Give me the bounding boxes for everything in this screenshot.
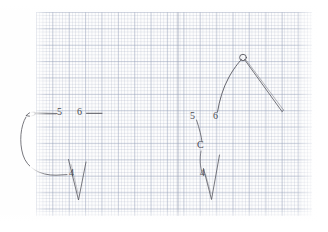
right-barb-inner bbox=[206, 174, 212, 194]
left-label-6: 6 bbox=[77, 107, 82, 117]
right-label-6: 6 bbox=[213, 111, 218, 121]
right-barb-v bbox=[204, 155, 220, 200]
left-shank-curve bbox=[21, 117, 67, 175]
right-blade-inner bbox=[247, 61, 284, 111]
left-leader-line-5 bbox=[35, 113, 58, 114]
right-blade-outer bbox=[245, 60, 283, 112]
left-label-4: 4 bbox=[69, 168, 74, 178]
right-shank-curve bbox=[218, 60, 242, 113]
right-figure-ink bbox=[197, 54, 284, 199]
left-figure-ink bbox=[21, 112, 102, 200]
left-label-5: 5 bbox=[57, 107, 62, 117]
scanned-sketch-page: 5 6 4 5 6 C 4 bbox=[0, 0, 328, 232]
left-needle-eye bbox=[27, 112, 36, 116]
right-label-5: 5 bbox=[190, 111, 195, 121]
right-needle-eye bbox=[240, 54, 247, 60]
right-label-4: 4 bbox=[200, 168, 205, 178]
ink-drawing-layer bbox=[0, 0, 328, 232]
right-blade-tip bbox=[282, 110, 284, 111]
right-label-c: C bbox=[197, 140, 204, 150]
